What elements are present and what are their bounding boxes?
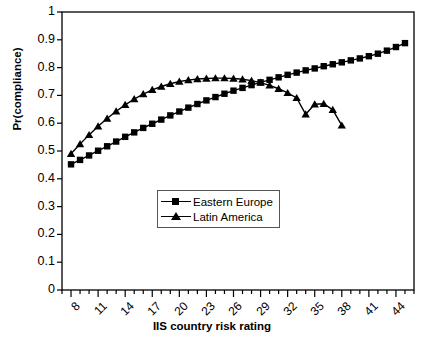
y-tick-label: 0.8	[23, 60, 55, 74]
chart-container: Pr(compliance) IIS country risk rating 0…	[0, 0, 424, 338]
chart-legend: Eastern Europe Latin America	[157, 190, 280, 228]
y-tick-label: 0.2	[23, 226, 55, 240]
chart-plot-area	[0, 0, 424, 338]
y-tick-label: 0	[23, 282, 55, 296]
legend-marker-triangle-icon	[161, 211, 191, 223]
y-tick-label: 0.3	[23, 199, 55, 213]
legend-label-eastern-europe: Eastern Europe	[193, 196, 273, 208]
y-tick-label: 1	[23, 4, 55, 18]
legend-item-latin-america: Latin America	[161, 209, 273, 224]
legend-label-latin-america: Latin America	[193, 211, 263, 223]
y-tick-label: 0.6	[23, 115, 55, 129]
y-tick-label: 0.1	[23, 254, 55, 268]
y-tick-label: 0.9	[23, 32, 55, 46]
y-axis-title: Pr(compliance)	[11, 47, 23, 130]
y-tick-label: 0.5	[23, 143, 55, 157]
y-tick-label: 0.7	[23, 87, 55, 101]
legend-marker-square-icon	[161, 196, 191, 208]
y-tick-label: 0.4	[23, 171, 55, 185]
legend-item-eastern-europe: Eastern Europe	[161, 194, 273, 209]
